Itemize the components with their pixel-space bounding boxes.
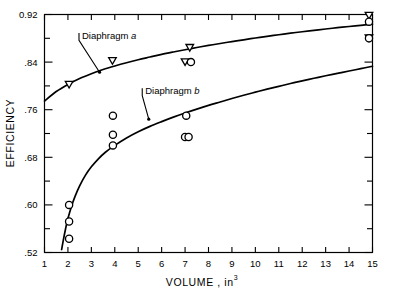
data-point-markers bbox=[65, 12, 372, 242]
marker-circle bbox=[109, 112, 116, 119]
y-tick-label: .76 bbox=[24, 104, 37, 115]
marker-circle bbox=[66, 201, 73, 208]
axes-frame bbox=[45, 15, 373, 253]
fitted-curves bbox=[45, 24, 373, 249]
marker-triangle-down bbox=[109, 58, 117, 65]
x-tick-label: 3 bbox=[89, 258, 94, 269]
marker-circle bbox=[365, 18, 372, 25]
marker-circle bbox=[109, 131, 116, 138]
x-tick-label: 1 bbox=[42, 258, 47, 269]
x-tick-label: 11 bbox=[274, 258, 284, 269]
figure-container: 123456789101112131415 .52.60.68.76.840.9… bbox=[0, 0, 404, 293]
y-tick-label: .60 bbox=[24, 199, 37, 210]
x-tick-label: 8 bbox=[206, 258, 211, 269]
x-tick-label: 7 bbox=[182, 258, 187, 269]
series-annotations: Diaphragm aDiaphragm b bbox=[79, 30, 200, 121]
y-axis-ticks bbox=[45, 15, 373, 253]
marker-circle bbox=[185, 133, 192, 140]
x-tick-label: 13 bbox=[320, 258, 331, 269]
x-tick-label: 9 bbox=[229, 258, 234, 269]
x-tick-label: 15 bbox=[367, 258, 378, 269]
x-axis-label: VOLUME , in3 bbox=[166, 273, 238, 288]
marker-circle bbox=[187, 59, 194, 66]
marker-circle bbox=[109, 142, 116, 149]
x-tick-label: 12 bbox=[297, 258, 308, 269]
marker-circle bbox=[365, 35, 372, 42]
x-axis-tick-labels: 123456789101112131415 bbox=[42, 258, 378, 269]
annotation-anchor-dot bbox=[98, 71, 101, 74]
y-tick-label: .52 bbox=[24, 247, 37, 258]
y-tick-label: .68 bbox=[24, 152, 37, 163]
efficiency-vs-volume-chart: 123456789101112131415 .52.60.68.76.840.9… bbox=[0, 0, 404, 293]
x-axis-ticks bbox=[45, 15, 373, 253]
curve-diaphragm-b bbox=[62, 66, 373, 249]
x-tick-label: 14 bbox=[344, 258, 355, 269]
x-tick-label: 4 bbox=[112, 258, 117, 269]
y-axis-label: EFFICIENCY bbox=[4, 99, 16, 167]
y-tick-label: .84 bbox=[24, 57, 37, 68]
x-tick-label: 6 bbox=[159, 258, 164, 269]
y-tick-label: 0.92 bbox=[19, 9, 38, 20]
annotation-label: Diaphragm b bbox=[145, 85, 199, 96]
marker-circle bbox=[66, 235, 73, 242]
x-tick-label: 10 bbox=[250, 258, 261, 269]
marker-circle bbox=[66, 218, 73, 225]
annotation-label: Diaphragm a bbox=[82, 30, 136, 41]
plot-border bbox=[45, 15, 373, 253]
annotation-anchor-dot bbox=[147, 118, 150, 121]
x-tick-label: 5 bbox=[136, 258, 141, 269]
x-tick-label: 2 bbox=[65, 258, 70, 269]
marker-circle bbox=[183, 112, 190, 119]
y-axis-tick-labels: .52.60.68.76.840.92 bbox=[19, 9, 38, 258]
